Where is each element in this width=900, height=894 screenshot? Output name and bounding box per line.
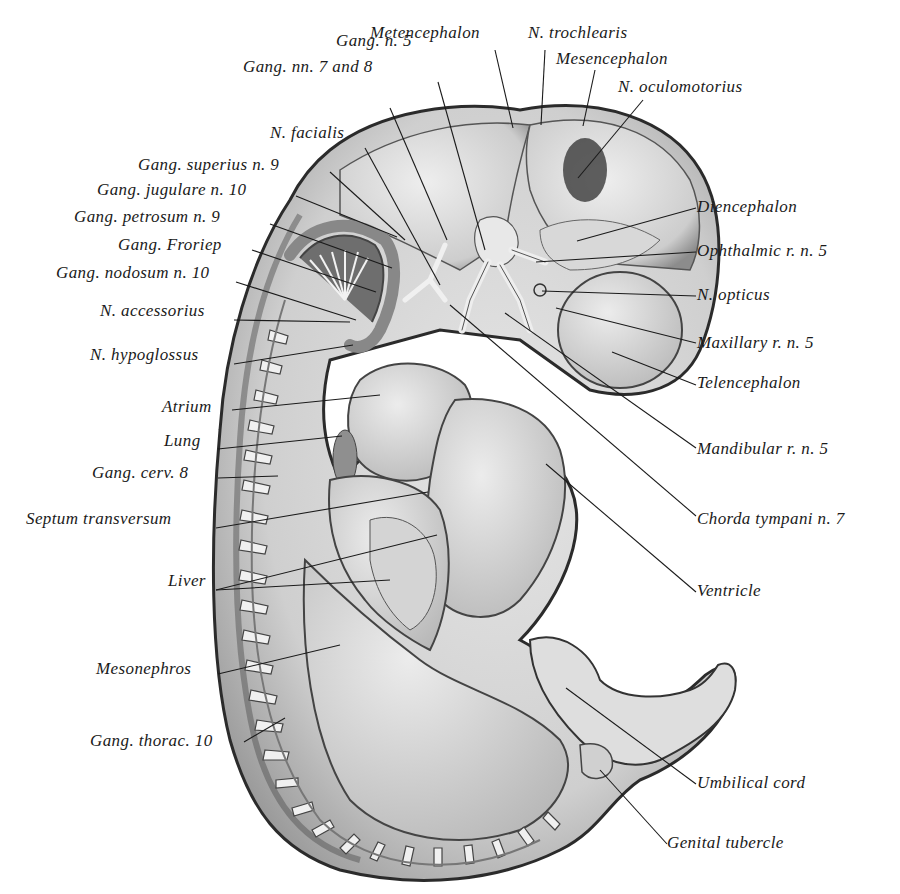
label-maxillary-r-n-5: Maxillary r. n. 5 <box>697 334 814 351</box>
label-n-trochlearis: N. trochlearis <box>528 24 627 41</box>
label-gang-nn-7-8: Gang. nn. 7 and 8 <box>243 58 373 75</box>
label-gang-nodosum-n-10: Gang. nodosum n. 10 <box>56 264 210 281</box>
label-n-oculomotorius: N. oculomotorius <box>618 78 742 95</box>
label-lung: Lung <box>164 432 201 449</box>
label-mesonephros: Mesonephros <box>96 660 191 677</box>
label-gang-superius-n-9: Gang. superius n. 9 <box>138 156 279 173</box>
label-liver: Liver <box>168 572 206 589</box>
label-atrium: Atrium <box>162 398 212 415</box>
label-gang-froriep: Gang. Froriep <box>118 236 222 253</box>
label-genital-tubercle: Genital tubercle <box>667 834 784 851</box>
label-diencephalon: Diencephalon <box>697 198 797 215</box>
label-mandibular-r-n-5: Mandibular r. n. 5 <box>697 440 828 457</box>
label-n-facialis: N. facialis <box>270 124 344 141</box>
label-septum-transversum: Septum transversum <box>26 510 172 527</box>
label-gang-cerv-8: Gang. cerv. 8 <box>92 464 188 481</box>
label-gang-petrosum-n-9: Gang. petrosum n. 9 <box>74 208 220 225</box>
label-ophthalmic-r-n-5: Ophthalmic r. n. 5 <box>697 242 827 259</box>
telencephalon-shape <box>558 272 682 388</box>
label-gang-thorac-10: Gang. thorac. 10 <box>90 732 213 749</box>
label-n-accessorius: N. accessorius <box>100 302 205 319</box>
embryo-diagram: MetencephalonN. trochlearisMesencephalon… <box>0 0 900 894</box>
label-umbilical-cord: Umbilical cord <box>697 774 805 791</box>
label-telencephalon: Telencephalon <box>697 374 801 391</box>
label-chorda-tympani-n-7: Chorda tympani n. 7 <box>697 510 845 527</box>
label-n-hypoglossus: N. hypoglossus <box>90 346 199 363</box>
label-mesencephalon: Mesencephalon <box>556 50 668 67</box>
label-n-opticus: N. opticus <box>697 286 770 303</box>
label-ventricle: Ventricle <box>697 582 761 599</box>
trigeminal-ganglion <box>475 217 518 267</box>
label-gang-n-5: Gang. n. 5 <box>336 32 412 49</box>
label-gang-jugulare-n-10: Gang. jugulare n. 10 <box>97 181 247 198</box>
